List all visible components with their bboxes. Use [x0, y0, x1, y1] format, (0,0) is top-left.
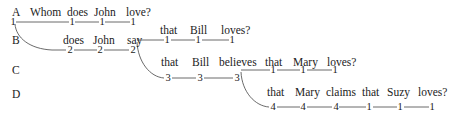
word: John [94, 6, 116, 18]
word: that [267, 86, 284, 98]
word: claims [326, 86, 356, 98]
index: 1 [270, 64, 275, 75]
index: 4 [270, 101, 275, 112]
index: 4 [333, 101, 338, 112]
row-label-b: B [12, 34, 20, 46]
index: 1 [10, 16, 15, 27]
row-label-c: C [12, 64, 20, 76]
index: 1 [164, 34, 169, 45]
index: 1 [130, 16, 135, 27]
word: Mary [295, 86, 320, 98]
row-label-d: D [12, 88, 20, 100]
index: 1 [195, 34, 200, 45]
index: 1 [332, 64, 337, 75]
word: Bill [192, 56, 209, 68]
index: 3 [165, 72, 170, 83]
index: 1 [229, 34, 234, 45]
index: 1 [366, 101, 371, 112]
word: that [161, 56, 178, 68]
word: Whom [30, 6, 61, 18]
index: 2 [130, 44, 135, 55]
word: does [63, 34, 84, 46]
index: 1 [69, 16, 74, 27]
index: 4 [300, 101, 305, 112]
index: 1 [429, 101, 434, 112]
word: loves? [418, 86, 447, 98]
word: believes [219, 56, 257, 68]
word: loves? [221, 24, 250, 36]
index: 1 [99, 16, 104, 27]
index: 3 [234, 72, 239, 83]
index: 1 [300, 64, 305, 75]
word: Suzy [387, 86, 410, 98]
word: that [362, 86, 379, 98]
index: 2 [97, 44, 102, 55]
index: 2 [67, 44, 72, 55]
index: 3 [197, 72, 202, 83]
index: 1 [397, 101, 402, 112]
word: John [93, 34, 115, 46]
